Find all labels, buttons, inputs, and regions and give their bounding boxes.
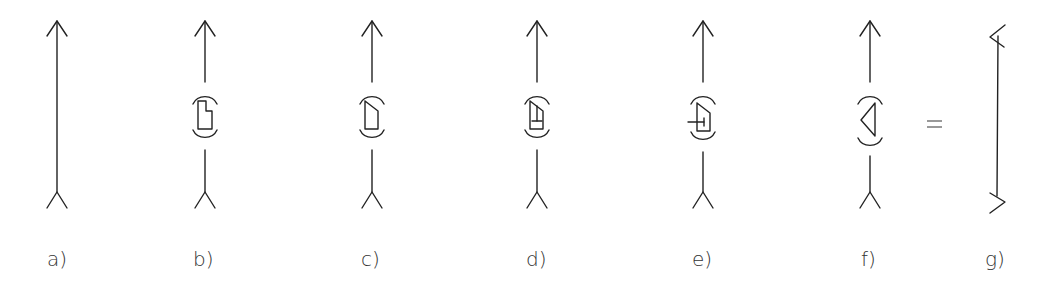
vertical-line bbox=[997, 36, 998, 196]
fork-tail-icon bbox=[195, 192, 215, 208]
panel-label-b: b) bbox=[193, 247, 214, 271]
fork-tail-icon bbox=[47, 192, 67, 208]
arrow-up-icon bbox=[693, 21, 713, 82]
panel-label-a: a) bbox=[47, 247, 67, 271]
arrow-up-icon bbox=[860, 21, 880, 82]
upper-bracket-icon bbox=[858, 97, 882, 104]
arrow-up-icon bbox=[527, 21, 547, 82]
fork-tail-icon bbox=[527, 192, 547, 208]
panel-label-g: g) bbox=[985, 247, 1005, 271]
arrow-up-icon bbox=[47, 21, 67, 192]
fork-tail-icon bbox=[362, 192, 382, 208]
upper-bracket-icon bbox=[360, 97, 384, 104]
arrow-up-icon bbox=[195, 21, 215, 82]
fork-tail-icon bbox=[693, 192, 713, 208]
slanted-trapezoid-icon bbox=[365, 101, 378, 129]
upper-bracket-icon bbox=[691, 97, 715, 104]
lower-bracket-icon bbox=[691, 132, 715, 139]
panel-a: a) bbox=[47, 21, 67, 271]
lower-bracket-icon bbox=[525, 130, 549, 137]
arrow-up-icon bbox=[362, 21, 382, 82]
lower-bracket-icon bbox=[858, 138, 882, 145]
slanted-trapezoid-icon bbox=[697, 103, 710, 131]
panel-label-f: f) bbox=[861, 247, 876, 271]
lower-bracket-icon bbox=[360, 130, 384, 137]
panel-f: f) bbox=[858, 21, 882, 271]
panel-c: c) bbox=[360, 21, 384, 271]
panel-label-e: e) bbox=[692, 247, 712, 271]
notched-rectangle-icon bbox=[198, 101, 212, 129]
fork-tail-icon bbox=[860, 192, 880, 208]
diagram-canvas: a) b) c) bbox=[0, 0, 1053, 295]
panel-d: d) bbox=[525, 21, 549, 271]
panel-label-c: c) bbox=[361, 247, 380, 271]
lower-bracket-icon bbox=[193, 130, 217, 137]
panel-e: e) bbox=[688, 21, 715, 271]
panel-label-d: d) bbox=[526, 247, 547, 271]
panel-b: b) bbox=[193, 21, 217, 271]
triangle-icon bbox=[861, 103, 875, 136]
upper-bracket-icon bbox=[525, 97, 549, 104]
panel-g: g) bbox=[985, 25, 1005, 271]
equals-sign bbox=[927, 121, 942, 127]
